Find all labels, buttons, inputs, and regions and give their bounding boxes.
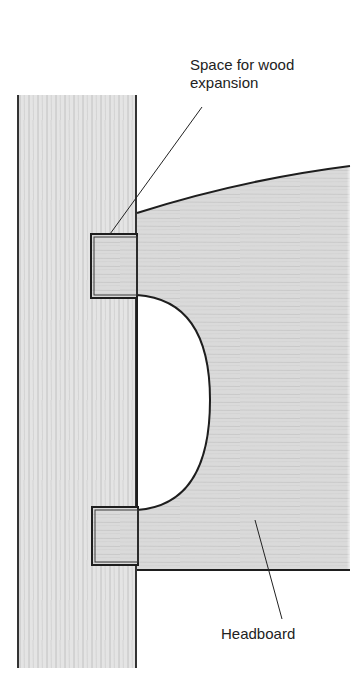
upper-tenon	[91, 234, 137, 298]
expansion-label-line1: Space for wood	[190, 56, 294, 74]
bed-post	[18, 95, 136, 668]
expansion-label-line2: expansion	[190, 74, 294, 92]
joinery-diagram	[0, 0, 364, 698]
headboard-label: Headboard	[221, 625, 295, 643]
expansion-label: Space for wood expansion	[190, 56, 294, 92]
lower-tenon	[92, 507, 138, 565]
